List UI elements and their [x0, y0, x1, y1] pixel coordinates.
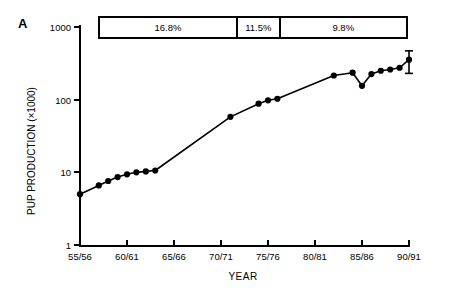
data-point [77, 191, 83, 197]
x-tick-1 [126, 240, 128, 245]
data-point [368, 71, 374, 77]
data-point [350, 70, 356, 76]
data-point [378, 68, 384, 74]
data-point [115, 174, 121, 180]
data-point [265, 97, 271, 103]
x-tick-6 [361, 240, 363, 245]
data-point [124, 171, 130, 177]
data-point [256, 101, 262, 107]
data-point [96, 182, 102, 188]
x-tick-7 [408, 240, 410, 245]
x-tick-label-7: 90/91 [397, 251, 421, 262]
y-tick-label-100: 100 [32, 94, 71, 105]
y-tick-10 [74, 171, 79, 173]
x-tick-5 [314, 240, 316, 245]
x-tick-label-1: 60/61 [115, 251, 139, 262]
data-point [387, 66, 393, 72]
data-point [143, 168, 149, 174]
data-point [397, 65, 403, 71]
x-tick-2 [173, 240, 175, 245]
y-tick-100 [74, 99, 79, 101]
y-tick-label-1: 1 [32, 240, 71, 251]
x-tick-label-5: 80/81 [303, 251, 327, 262]
y-tick-label-1000: 1000 [32, 22, 71, 33]
data-point [331, 72, 337, 78]
y-tick-label-10: 10 [32, 167, 71, 178]
data-point [152, 167, 158, 173]
x-tick-label-4: 75/76 [256, 251, 280, 262]
data-point [274, 96, 280, 102]
y-tick-1000 [74, 26, 79, 28]
data-point [105, 178, 111, 184]
data-point [133, 169, 139, 175]
x-tick-label-6: 85/86 [350, 251, 374, 262]
chart-panel: A 16.8%11.5%9.8% PUP PRODUCTION (×1000) … [0, 0, 461, 299]
x-tick-label-0: 55/56 [68, 251, 92, 262]
x-tick-0 [79, 240, 81, 245]
data-point [359, 83, 365, 89]
x-tick-3 [220, 240, 222, 245]
x-tick-label-2: 65/66 [162, 251, 186, 262]
x-tick-label-3: 70/71 [209, 251, 233, 262]
data-point [227, 114, 233, 120]
x-tick-4 [267, 240, 269, 245]
